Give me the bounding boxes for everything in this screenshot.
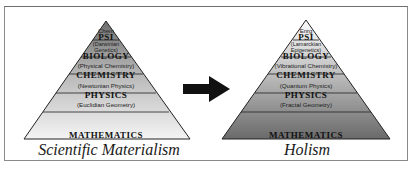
right-layer-2-name: BIOLOGY (283, 51, 330, 61)
right-layer-3-sub: (Vibrational Chemistry) (275, 62, 338, 69)
right-pyramid: Enrg PSI (Lamarckian Epigenetics) BIOLOG… (222, 20, 390, 140)
left-pyramid: Chem PSI (Darwinian Genetics) BIOLOGY (P… (24, 21, 190, 140)
left-layer-5-name: MATHEMATICS (69, 130, 143, 140)
left-layer-3-sub: (Physical Chemistry) (78, 62, 135, 69)
left-layer-5-sub: (Euclidian Geometry) (77, 101, 135, 108)
right-pyramid-title: Holism (222, 141, 392, 159)
left-pyramid-title: Scientific Materialism (24, 141, 194, 159)
right-layer-4-sub: (Quantum Physics) (280, 82, 333, 89)
left-layer-2-name: BIOLOGY (83, 51, 130, 61)
right-layer-5-sub: (Fractal Geometry) (280, 101, 332, 108)
left-layer-4-name: PHYSICS (85, 90, 128, 100)
arrow-right-icon (183, 76, 230, 102)
left-layer-4-sub: (Newtonian Physics) (78, 82, 134, 89)
left-layer-3-name: CHEMISTRY (76, 70, 136, 80)
right-layer-4-name: PHYSICS (285, 90, 328, 100)
right-layer-3-name: CHEMISTRY (276, 70, 336, 80)
right-layer-5-name: MATHEMATICS (269, 130, 343, 140)
